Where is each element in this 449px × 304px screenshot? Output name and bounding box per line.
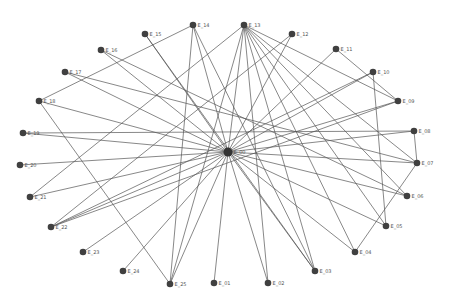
edge-E_13-E_09 <box>244 25 398 101</box>
edge-E_00-E_20 <box>20 152 228 165</box>
network-graph: E_00E_01E_02E_03E_04E_05E_06E_07E_08E_09… <box>0 0 449 304</box>
node-E_10[interactable]: E_10 <box>370 69 390 76</box>
node-dot[interactable] <box>190 22 197 29</box>
node-label: E_21 <box>35 194 47 201</box>
node-dot[interactable] <box>395 98 402 105</box>
node-dot[interactable] <box>265 280 272 287</box>
edge-E_00-E_01 <box>214 152 228 283</box>
node-E_01[interactable]: E_01 <box>211 280 231 287</box>
node-dot[interactable] <box>17 162 24 169</box>
node-E_15[interactable]: E_15 <box>142 31 162 38</box>
node-dot[interactable] <box>352 249 359 256</box>
edge-E_00-E_24 <box>123 152 228 271</box>
node-dot[interactable] <box>404 193 411 200</box>
node-label: E_05 <box>391 223 403 230</box>
node-label: E_15 <box>150 31 162 38</box>
node-E_12[interactable]: E_12 <box>289 31 309 38</box>
edge-E_13-E_21 <box>30 25 244 197</box>
edge-E_00-E_16 <box>101 50 228 152</box>
node-layer: E_00E_01E_02E_03E_04E_05E_06E_07E_08E_09… <box>17 22 434 288</box>
node-dot[interactable] <box>98 47 105 54</box>
node-dot[interactable] <box>211 280 218 287</box>
node-E_19[interactable]: E_19 <box>20 130 40 137</box>
node-label: E_04 <box>360 249 372 256</box>
node-label: E_10 <box>378 69 390 76</box>
node-E_17[interactable]: E_17 <box>62 69 82 76</box>
node-E_08[interactable]: E_08 <box>411 128 431 135</box>
edge-E_08-E_07 <box>414 131 417 163</box>
edge-E_07-E_04 <box>355 163 417 252</box>
node-label: E_11 <box>341 46 353 53</box>
node-label: E_07 <box>422 160 434 167</box>
node-dot[interactable] <box>312 268 319 275</box>
node-dot[interactable] <box>224 148 233 157</box>
edge-E_10-E_05 <box>373 72 386 226</box>
node-label: E_03 <box>320 268 332 275</box>
node-E_14[interactable]: E_14 <box>190 22 210 29</box>
edge-E_12-E_22 <box>51 34 292 227</box>
node-E_09[interactable]: E_09 <box>395 98 415 105</box>
edge-E_00-E_21 <box>30 152 228 197</box>
node-label: E_17 <box>70 69 82 76</box>
edge-E_14-E_18 <box>39 25 193 101</box>
edge-E_09-E_22 <box>51 101 398 227</box>
node-label: E_06 <box>412 193 424 200</box>
node-label: E_16 <box>106 47 118 54</box>
node-E_07[interactable]: E_07 <box>414 160 434 167</box>
node-dot[interactable] <box>289 31 296 38</box>
node-label: E_19 <box>28 130 40 137</box>
node-label: E_18 <box>44 98 56 105</box>
node-label: E_22 <box>56 224 68 231</box>
node-dot[interactable] <box>167 281 174 288</box>
edge-E_00-E_18 <box>39 101 228 152</box>
node-E_24[interactable]: E_24 <box>120 268 140 275</box>
node-dot[interactable] <box>80 249 87 256</box>
edge-E_00-E_04 <box>228 152 355 252</box>
node-dot[interactable] <box>27 194 34 201</box>
node-dot[interactable] <box>370 69 377 76</box>
node-E_22[interactable]: E_22 <box>48 224 68 231</box>
node-dot[interactable] <box>20 130 27 137</box>
node-dot[interactable] <box>48 224 55 231</box>
node-dot[interactable] <box>36 98 43 105</box>
node-dot[interactable] <box>62 69 69 76</box>
edge-E_14-E_03 <box>193 25 315 271</box>
node-E_05[interactable]: E_05 <box>383 223 403 230</box>
node-label: E_20 <box>25 162 37 169</box>
node-E_23[interactable]: E_23 <box>80 249 100 256</box>
edge-E_00-E_05 <box>228 152 386 226</box>
node-dot[interactable] <box>142 31 149 38</box>
node-label: E_08 <box>419 128 431 135</box>
node-label: E_01 <box>219 280 231 287</box>
node-dot[interactable] <box>414 160 421 167</box>
edge-E_00-E_17 <box>65 72 228 152</box>
node-E_16[interactable]: E_16 <box>98 47 118 54</box>
edge-E_00-E_14 <box>193 25 228 152</box>
node-E_11[interactable]: E_11 <box>333 46 353 53</box>
node-dot[interactable] <box>120 268 127 275</box>
node-E_25[interactable]: E_25 <box>167 281 187 288</box>
node-label: E_14 <box>198 22 210 29</box>
node-E_18[interactable]: E_18 <box>36 98 56 105</box>
node-E_04[interactable]: E_04 <box>352 249 372 256</box>
node-E_06[interactable]: E_06 <box>404 193 424 200</box>
node-label: E_25 <box>175 281 187 288</box>
edge-E_00-E_19 <box>23 133 228 152</box>
node-label: E_13 <box>249 22 261 29</box>
node-dot[interactable] <box>383 223 390 230</box>
node-label: E_02 <box>273 280 285 287</box>
edge-E_13-E_07 <box>244 25 417 163</box>
edge-E_00-E_13 <box>228 25 244 152</box>
node-E_21[interactable]: E_21 <box>27 194 47 201</box>
node-E_03[interactable]: E_03 <box>312 268 332 275</box>
node-E_13[interactable]: E_13 <box>241 22 261 29</box>
node-dot[interactable] <box>411 128 418 135</box>
node-dot[interactable] <box>241 22 248 29</box>
node-dot[interactable] <box>333 46 340 53</box>
edge-E_16-E_06 <box>101 50 407 196</box>
node-E_02[interactable]: E_02 <box>265 280 285 287</box>
node-label: E_09 <box>403 98 415 105</box>
edge-E_18-E_25 <box>39 101 170 284</box>
node-label: E_24 <box>128 268 140 275</box>
node-E_20[interactable]: E_20 <box>17 162 37 169</box>
